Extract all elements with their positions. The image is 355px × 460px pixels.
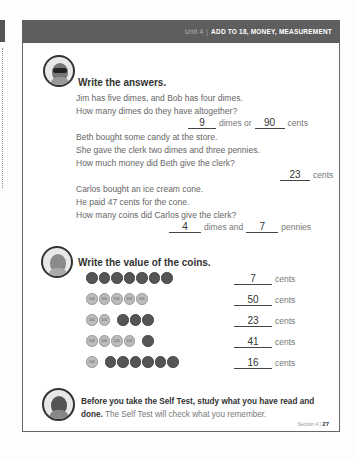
coin-value-answer: 50cents bbox=[234, 294, 295, 306]
coin-value-answer: 7cents bbox=[234, 273, 295, 285]
penny-coin-icon bbox=[161, 272, 173, 284]
penny-coin-icon bbox=[142, 356, 154, 368]
dime-coin-icon: 10¢ bbox=[111, 293, 123, 305]
penny-coin-icon bbox=[155, 356, 167, 368]
answer-blank-cents[interactable]: 16 bbox=[234, 357, 272, 369]
penny-coin-icon bbox=[117, 314, 129, 326]
previous-page-edge bbox=[0, 20, 5, 42]
penny-coin-icon bbox=[99, 272, 111, 284]
penny-coin-icon bbox=[130, 314, 142, 326]
dime-coin-icon: 10¢ bbox=[86, 293, 98, 305]
self-test-reminder: Before you take the Self Test, study wha… bbox=[81, 395, 331, 421]
answer-blank-cents[interactable]: 23 bbox=[234, 315, 272, 327]
dime-coin-icon: 10¢ bbox=[86, 335, 98, 347]
unit-title: ADD TO 18, MONEY, MEASUREMENT bbox=[211, 28, 332, 35]
coin-row bbox=[86, 272, 174, 284]
penny-coin-icon bbox=[111, 272, 123, 284]
answer-blank-pennies[interactable]: 7 bbox=[246, 221, 278, 233]
answer-blank-cents[interactable]: 50 bbox=[234, 294, 272, 306]
page-header: Unit 4 | ADD TO 18, MONEY, MEASUREMENT bbox=[22, 20, 340, 43]
coin-row: 10¢10¢10¢10¢10¢ bbox=[86, 293, 149, 305]
section1-title: Write the answers. bbox=[78, 77, 166, 88]
problem-2-answer: 23cents bbox=[277, 169, 333, 181]
dime-coin-icon: 10¢ bbox=[99, 314, 111, 326]
section2-title: Write the value of the coins. bbox=[78, 257, 211, 268]
answer-blank-dimes[interactable]: 4 bbox=[169, 221, 201, 233]
dime-coin-icon: 10¢ bbox=[86, 356, 98, 368]
squirrel-mascot-icon bbox=[41, 246, 73, 278]
penny-coin-icon bbox=[117, 356, 129, 368]
problem-3-answer: 4dimes and7pennies bbox=[166, 221, 311, 233]
penny-coin-icon bbox=[130, 356, 142, 368]
coin-value-answer: 16cents bbox=[234, 357, 295, 369]
coin-row: 10¢ bbox=[86, 356, 180, 368]
dime-coin-icon: 10¢ bbox=[86, 314, 98, 326]
coin-value-answer: 41cents bbox=[234, 336, 295, 348]
answer-blank-cents[interactable]: 23 bbox=[280, 169, 310, 181]
page-number: Section 4 | 27 bbox=[297, 421, 329, 427]
coin-value-answer: 23cents bbox=[234, 315, 295, 327]
dime-coin-icon: 10¢ bbox=[99, 335, 111, 347]
penny-coin-icon bbox=[142, 314, 154, 326]
header-separator: | bbox=[206, 28, 208, 35]
problem-3-text: Carlos bought an ice cream cone. He paid… bbox=[76, 183, 236, 222]
dime-coin-icon: 10¢ bbox=[136, 293, 148, 305]
penny-coin-icon bbox=[105, 356, 117, 368]
coin-row: 10¢10¢ bbox=[86, 314, 155, 326]
dime-coin-icon: 10¢ bbox=[124, 335, 136, 347]
raccoon-mascot-icon bbox=[43, 55, 75, 87]
unit-label: Unit 4 bbox=[185, 28, 203, 35]
dime-coin-icon: 10¢ bbox=[111, 335, 123, 347]
problem-2-text: Beth bought some candy at the store. She… bbox=[76, 131, 260, 170]
penny-coin-icon bbox=[136, 272, 148, 284]
penny-coin-icon bbox=[149, 272, 161, 284]
answer-blank-cents[interactable]: 41 bbox=[234, 336, 272, 348]
answer-blank-cents[interactable]: 7 bbox=[234, 273, 272, 285]
problem-1-text: Jim has five dimes, and Bob has four dim… bbox=[76, 92, 243, 118]
problem-1-answer: 9dimes or90cents bbox=[185, 117, 308, 129]
answer-blank-dimes[interactable]: 9 bbox=[188, 117, 216, 129]
workbook-page: Unit 4 | ADD TO 18, MONEY, MEASUREMENT W… bbox=[22, 20, 340, 432]
penny-coin-icon bbox=[142, 335, 154, 347]
penny-coin-icon bbox=[167, 356, 179, 368]
penny-coin-icon bbox=[86, 272, 98, 284]
coin-row: 10¢10¢10¢10¢ bbox=[86, 335, 155, 347]
dime-coin-icon: 10¢ bbox=[124, 293, 136, 305]
dime-coin-icon: 10¢ bbox=[99, 293, 111, 305]
fox-mascot-icon bbox=[42, 388, 75, 421]
penny-coin-icon bbox=[124, 272, 136, 284]
previous-page-dotted-line bbox=[2, 48, 3, 188]
answer-blank-cents[interactable]: 90 bbox=[255, 117, 285, 129]
